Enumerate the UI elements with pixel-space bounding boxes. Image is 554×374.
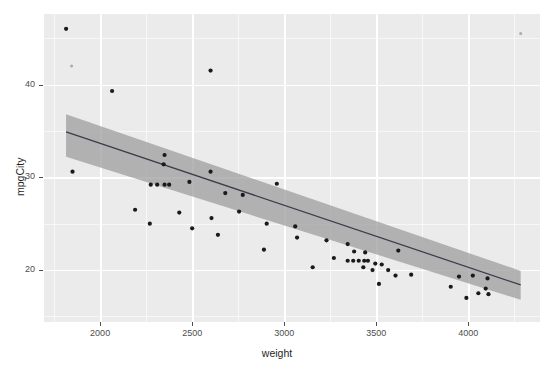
data-point — [396, 248, 400, 252]
data-point — [409, 273, 413, 277]
data-point — [223, 191, 227, 195]
data-point — [167, 183, 171, 187]
x-axis-title: weight — [0, 347, 554, 359]
x-tick-label: 4000 — [446, 328, 490, 338]
data-point — [209, 216, 213, 220]
data-point — [265, 222, 269, 226]
data-point — [471, 274, 475, 278]
data-point — [208, 68, 212, 72]
y-tick-mark — [39, 270, 43, 271]
scatter-points-layer — [44, 14, 540, 322]
data-point — [346, 259, 350, 263]
data-point — [208, 170, 212, 174]
data-point — [361, 265, 365, 269]
data-point — [162, 153, 166, 157]
data-point — [133, 208, 137, 212]
x-tick-mark — [192, 322, 193, 326]
data-point — [237, 210, 241, 214]
data-point — [110, 89, 114, 93]
x-tick-mark — [468, 322, 469, 326]
data-point — [449, 285, 453, 289]
data-point — [148, 222, 152, 226]
data-point — [363, 250, 367, 254]
data-point — [311, 265, 315, 269]
x-tick-mark — [376, 322, 377, 326]
data-point — [357, 259, 361, 263]
data-point — [162, 162, 166, 166]
x-tick-mark — [100, 322, 101, 326]
y-axis-title: mpgCity — [14, 157, 26, 196]
y-tick-label: 20 — [0, 264, 35, 274]
x-tick-label: 3000 — [262, 328, 306, 338]
data-point — [332, 256, 336, 260]
data-point — [187, 180, 191, 184]
data-point — [352, 249, 356, 253]
data-point — [155, 183, 159, 187]
data-point — [393, 274, 397, 278]
y-tick-label: 40 — [0, 79, 35, 89]
data-point — [373, 261, 377, 265]
data-point — [262, 248, 266, 252]
data-point — [293, 224, 297, 228]
data-point — [216, 233, 220, 237]
data-point — [64, 27, 68, 31]
plot-panel — [44, 14, 540, 322]
data-point — [484, 287, 488, 291]
data-point — [162, 183, 166, 187]
data-point — [241, 193, 245, 197]
data-point — [346, 242, 350, 246]
data-point — [275, 182, 279, 186]
data-point — [476, 291, 480, 295]
x-tick-label: 2500 — [170, 328, 214, 338]
data-point — [70, 170, 74, 174]
data-point — [177, 210, 181, 214]
data-point — [457, 274, 461, 278]
chart-container: 20002500300035004000 203040 weight mpgCi… — [0, 0, 554, 374]
x-tick-mark — [284, 322, 285, 326]
data-point — [519, 32, 522, 35]
x-tick-label: 2000 — [78, 328, 122, 338]
data-point — [351, 259, 355, 263]
data-point — [295, 235, 299, 239]
data-point — [485, 276, 489, 280]
data-point — [362, 259, 366, 263]
data-point — [386, 268, 390, 272]
data-point — [324, 238, 328, 242]
data-point — [377, 282, 381, 286]
y-tick-mark — [39, 177, 43, 178]
data-point — [464, 296, 468, 300]
data-point — [70, 64, 73, 67]
data-point — [486, 292, 490, 296]
data-point — [149, 183, 153, 187]
data-point — [366, 259, 370, 263]
x-tick-label: 3500 — [354, 328, 398, 338]
y-tick-mark — [39, 85, 43, 86]
data-point — [190, 226, 194, 230]
data-point — [370, 268, 374, 272]
data-point — [380, 262, 384, 266]
